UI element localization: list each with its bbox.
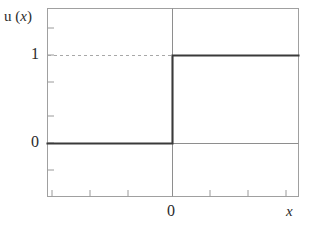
x-axis-label: x [286,204,293,219]
y-axis-label-paren-open: ( [12,8,21,24]
y-axis-label: u (x) [4,9,32,24]
y-tick-label-one: 1 [31,46,39,62]
y-tick-label-zero: 0 [31,134,39,150]
y-axis-label-paren-close: ) [27,8,32,24]
y-axis-label-name: u [4,8,12,24]
step-function-plot [0,0,309,227]
y-axis-label-variable: x [20,8,27,24]
figure-container: u (x) 1 0 0 x [0,0,309,227]
x-tick-label-zero: 0 [167,203,175,219]
